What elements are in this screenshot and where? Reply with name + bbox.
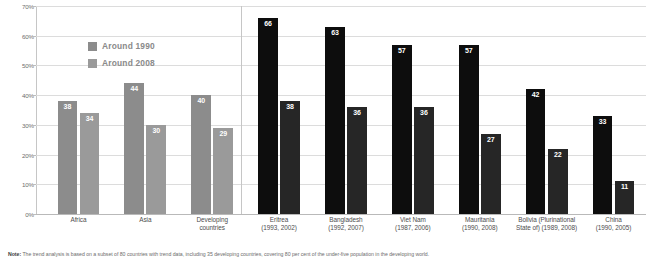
bar[interactable]: 30 [146, 125, 166, 214]
category-name: Bangladesh [329, 216, 362, 223]
bar[interactable]: 57 [392, 45, 412, 214]
plot-area: 383444304029663863365736572742223311 [36, 6, 646, 214]
plot-wrapper: 0%10%20%30%40%50%60%70% 3834443040296638… [0, 6, 648, 214]
bar-value-label: 33 [593, 118, 613, 126]
category-name: Developing [196, 216, 227, 223]
y-tick-mark [33, 36, 36, 37]
bar[interactable]: 22 [548, 149, 568, 214]
category-name: Eritrea [270, 216, 288, 223]
x-axis-category-labels: AfricaAsiaDevelopingcountriesEritrea(199… [37, 216, 646, 242]
bar-group: 5727 [459, 6, 501, 214]
bar[interactable]: 40 [191, 95, 211, 214]
category-years: (1990, 2005) [565, 224, 648, 232]
y-tick-mark [33, 155, 36, 156]
bar[interactable]: 44 [124, 83, 144, 214]
bar-value-label: 22 [548, 151, 568, 159]
bar-chart-figure: 0%10%20%30%40%50%60%70% 3834443040296638… [0, 0, 648, 264]
bar[interactable]: 36 [414, 107, 434, 214]
category-name: Asia [139, 216, 151, 223]
bar[interactable]: 27 [481, 134, 501, 214]
bar-value-label: 36 [414, 109, 434, 117]
bar-group: 6336 [325, 6, 367, 214]
y-tick-mark [33, 95, 36, 96]
legend-swatch [88, 59, 97, 68]
y-tick-mark [33, 214, 36, 215]
bar-value-label: 30 [146, 127, 166, 135]
bar[interactable]: 33 [593, 116, 613, 214]
bar[interactable]: 66 [258, 18, 278, 214]
bar[interactable]: 36 [347, 107, 367, 214]
y-tick-mark [33, 65, 36, 66]
y-tick-mark [33, 6, 36, 7]
bar-group: 5736 [392, 6, 434, 214]
category-name: Mauritania [465, 216, 494, 223]
bar-value-label: 57 [459, 47, 479, 55]
x-category-label: China(1990, 2005) [565, 216, 648, 233]
bar-group: 4029 [191, 6, 233, 214]
legend-item[interactable]: Around 1990 [88, 40, 218, 52]
bar-value-label: 42 [526, 91, 546, 99]
bar-group: 4430 [124, 6, 166, 214]
bar[interactable]: 34 [80, 113, 100, 214]
bar-value-label: 38 [58, 103, 78, 111]
bar[interactable]: 11 [615, 181, 635, 214]
bar[interactable]: 29 [213, 128, 233, 214]
bar-groups: 383444304029663863365736572742223311 [37, 6, 646, 214]
bar-value-label: 27 [481, 136, 501, 144]
bar-group: 3834 [58, 6, 100, 214]
category-name: Viet Nam [400, 216, 426, 223]
group-divider [241, 6, 242, 214]
bar-value-label: 38 [280, 103, 300, 111]
chart-legend: Around 1990Around 2008 [88, 40, 218, 74]
bar[interactable]: 42 [526, 89, 546, 214]
bar[interactable]: 38 [58, 101, 78, 214]
category-name: Africa [70, 216, 86, 223]
bar-value-label: 11 [615, 183, 635, 191]
bar-group: 4222 [526, 6, 568, 214]
bar-value-label: 29 [213, 130, 233, 138]
footnote-prefix: Note: [8, 251, 21, 257]
bar-group: 3311 [593, 6, 635, 214]
gridline [36, 214, 646, 215]
y-tick-mark [33, 184, 36, 185]
legend-label: Around 2008 [102, 58, 155, 68]
bar-value-label: 66 [258, 20, 278, 28]
bar-value-label: 36 [347, 109, 367, 117]
legend-item[interactable]: Around 2008 [88, 57, 218, 69]
bar-value-label: 34 [80, 115, 100, 123]
bar-value-label: 44 [124, 85, 144, 93]
category-name: China [605, 216, 621, 223]
y-axis-labels: 0%10%20%30%40%50%60%70% [0, 6, 34, 214]
footnote-text: The trend analysis is based on a subset … [22, 251, 429, 257]
bar[interactable]: 38 [280, 101, 300, 214]
y-tick-mark [33, 125, 36, 126]
bar-value-label: 40 [191, 97, 211, 105]
bar[interactable]: 57 [459, 45, 479, 214]
bar-value-label: 57 [392, 47, 412, 55]
legend-label: Around 1990 [102, 41, 155, 51]
chart-footnote: Note: The trend analysis is based on a s… [8, 251, 644, 258]
legend-swatch [88, 42, 97, 51]
bar[interactable]: 63 [325, 27, 345, 214]
bar-group: 6638 [258, 6, 300, 214]
bar-value-label: 63 [325, 29, 345, 37]
